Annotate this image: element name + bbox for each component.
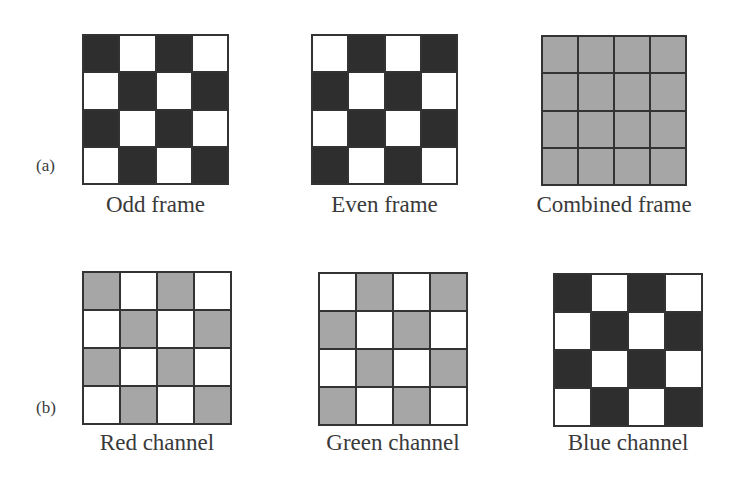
grid-cell-3-1: [349, 148, 383, 183]
grid-cell-1-2: [394, 312, 429, 348]
green-channel-grid: [318, 272, 468, 426]
grid-cell-1-1: [357, 312, 392, 348]
grid-cell-3-0: [320, 388, 355, 424]
grid-cell-2-1: [121, 349, 156, 385]
grid-cell-2-3: [193, 111, 227, 146]
grid-cell-3-0: [84, 148, 118, 183]
grid-cell-0-0: [313, 36, 347, 71]
grid-cell-2-2: [394, 350, 429, 386]
grid-cell-1-3: [193, 73, 227, 108]
grid-cell-1-1: [349, 73, 383, 108]
grid-cell-2-1: [349, 111, 383, 146]
grid-cell-2-1: [592, 351, 627, 387]
grid-cell-1-3: [651, 74, 685, 109]
even-frame-grid: [311, 34, 458, 185]
row-label-b: (b): [36, 398, 56, 418]
red-channel-caption: Red channel: [82, 430, 232, 456]
grid-cell-0-3: [195, 273, 230, 309]
grid-cell-0-3: [666, 275, 701, 311]
combined-frame-grid: [541, 35, 687, 186]
grid-cell-2-2: [629, 351, 664, 387]
grid-cell-3-1: [592, 389, 627, 425]
odd-frame-grid: [82, 34, 229, 185]
grid-cell-2-1: [357, 350, 392, 386]
grid-cell-0-3: [422, 36, 456, 71]
grid-cell-1-1: [121, 311, 156, 347]
grid-cell-3-2: [157, 148, 191, 183]
grid-cell-0-0: [84, 36, 118, 71]
grid-cell-2-0: [555, 351, 590, 387]
red-channel-grid: [82, 271, 232, 425]
grid-cell-2-0: [543, 112, 577, 147]
grid-cell-2-0: [313, 111, 347, 146]
grid-cell-0-1: [579, 37, 613, 72]
grid-cell-2-2: [615, 112, 649, 147]
grid-cell-1-3: [431, 312, 466, 348]
grid-cell-3-3: [422, 148, 456, 183]
grid-cell-1-3: [195, 311, 230, 347]
green-channel-caption: Green channel: [293, 430, 493, 456]
grid-cell-3-2: [158, 387, 193, 423]
grid-cell-2-3: [666, 351, 701, 387]
grid-cell-3-1: [120, 148, 154, 183]
blue-channel-grid: [553, 273, 703, 427]
grid-cell-0-0: [320, 274, 355, 310]
grid-cell-3-0: [84, 387, 119, 423]
grid-cell-0-2: [394, 274, 429, 310]
grid-cell-0-1: [121, 273, 156, 309]
grid-cell-2-3: [431, 350, 466, 386]
grid-cell-0-0: [555, 275, 590, 311]
grid-cell-1-2: [386, 73, 420, 108]
grid-cell-0-0: [84, 273, 119, 309]
grid-cell-0-2: [629, 275, 664, 311]
grid-cell-3-3: [651, 149, 685, 184]
grid-cell-1-3: [422, 73, 456, 108]
grid-cell-3-3: [193, 148, 227, 183]
grid-cell-3-2: [615, 149, 649, 184]
grid-cell-3-1: [357, 388, 392, 424]
grid-cell-0-1: [357, 274, 392, 310]
grid-cell-1-0: [320, 312, 355, 348]
grid-cell-0-1: [120, 36, 154, 71]
grid-cell-3-3: [666, 389, 701, 425]
grid-cell-2-3: [195, 349, 230, 385]
grid-cell-0-2: [158, 273, 193, 309]
grid-cell-1-1: [579, 74, 613, 109]
grid-cell-1-0: [555, 313, 590, 349]
even-frame-caption: Even frame: [311, 192, 458, 218]
grid-cell-0-1: [349, 36, 383, 71]
grid-cell-0-2: [615, 37, 649, 72]
grid-cell-1-3: [666, 313, 701, 349]
grid-cell-2-1: [579, 112, 613, 147]
grid-cell-2-2: [386, 111, 420, 146]
grid-cell-1-0: [84, 73, 118, 108]
grid-cell-3-2: [386, 148, 420, 183]
grid-cell-1-0: [313, 73, 347, 108]
combined-frame-caption: Combined frame: [514, 192, 714, 218]
odd-frame-caption: Odd frame: [82, 192, 229, 218]
grid-cell-0-3: [193, 36, 227, 71]
grid-cell-1-2: [629, 313, 664, 349]
grid-cell-3-2: [629, 389, 664, 425]
grid-cell-0-1: [592, 275, 627, 311]
grid-cell-3-0: [555, 389, 590, 425]
grid-cell-3-2: [394, 388, 429, 424]
grid-cell-3-0: [313, 148, 347, 183]
grid-cell-0-0: [543, 37, 577, 72]
grid-cell-2-3: [651, 112, 685, 147]
grid-cell-0-3: [651, 37, 685, 72]
grid-cell-1-0: [543, 74, 577, 109]
grid-cell-2-2: [157, 111, 191, 146]
grid-cell-3-1: [121, 387, 156, 423]
grid-cell-3-3: [195, 387, 230, 423]
grid-cell-0-2: [157, 36, 191, 71]
grid-cell-1-0: [84, 311, 119, 347]
blue-channel-caption: Blue channel: [528, 430, 728, 456]
grid-cell-2-0: [84, 111, 118, 146]
grid-cell-1-2: [615, 74, 649, 109]
grid-cell-3-0: [543, 149, 577, 184]
grid-cell-2-1: [120, 111, 154, 146]
grid-cell-1-2: [158, 311, 193, 347]
grid-cell-3-1: [579, 149, 613, 184]
grid-cell-2-0: [320, 350, 355, 386]
